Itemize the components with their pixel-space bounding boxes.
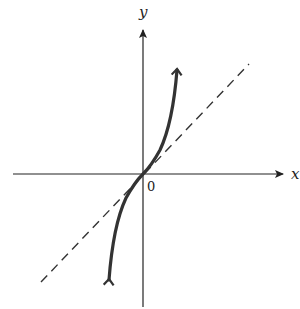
graph: y x 0 — [0, 0, 300, 309]
x-axis-label: x — [291, 165, 300, 183]
y-axis-label: y — [138, 3, 148, 21]
origin-label: 0 — [147, 179, 155, 194]
